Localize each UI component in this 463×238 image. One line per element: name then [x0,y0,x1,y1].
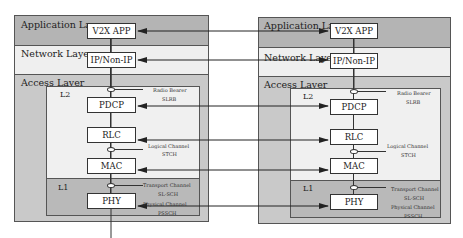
right-ip-box: IP/Non-IP [330,53,378,69]
left-logical-channel-note: Logical Channel [148,144,189,149]
left-pdcp-box: PDCP [87,97,136,113]
left-physical-channel-note: Physical Channel [143,202,187,207]
left-radio-bearer-stub [115,89,143,90]
right-transport-channel-note: Transport Channel [391,187,439,192]
left-slrb-note: SLRB [162,97,176,102]
left-logical-stub [115,149,143,150]
right-phy-box: PHY [330,194,378,210]
right-transport-sap-icon [350,185,358,190]
left-transport-stub [115,185,143,186]
left-logical-sap-icon [107,147,115,152]
left-transport-sap-icon [107,183,115,188]
right-slrb-note: SLRB [406,100,420,105]
right-logical-sap-icon [350,149,358,154]
left-v2x-app-box: V2X APP [87,23,136,39]
right-pssch-note: PSSCH [404,214,422,219]
left-radio-bearer-sap-icon [107,87,115,92]
left-slsch-note: SL-SCH [158,192,178,197]
left-radio-bearer-note: Radio Bearer [153,88,187,93]
right-physical-channel-note: Physical Channel [391,205,435,210]
right-radio-bearer-stub [358,91,386,92]
left-rlc-box: RLC [87,127,136,143]
left-pssch-note: PSSCH [158,211,176,216]
right-v2x-app-box: V2X APP [330,23,378,39]
right-logical-stub [358,151,386,152]
right-pdcp-box: PDCP [330,99,378,115]
right-transport-stub [358,187,386,188]
right-radio-bearer-sap-icon [350,89,358,94]
left-mac-box: MAC [87,158,136,174]
left-phy-box: PHY [87,193,136,209]
left-transport-channel-note: Transport Channel [143,183,191,188]
right-rlc-box: RLC [330,129,378,145]
right-mac-box: MAC [330,158,378,174]
right-logical-channel-note: Logical Channel [387,144,428,149]
right-radio-bearer-note: Radio Bearer [397,91,431,96]
right-stch-note: STCH [401,153,416,158]
left-ip-box: IP/Non-IP [87,52,136,68]
left-stch-note: STCH [162,152,177,157]
connection-lines [0,0,463,238]
right-slsch-note: SL-SCH [404,196,424,201]
